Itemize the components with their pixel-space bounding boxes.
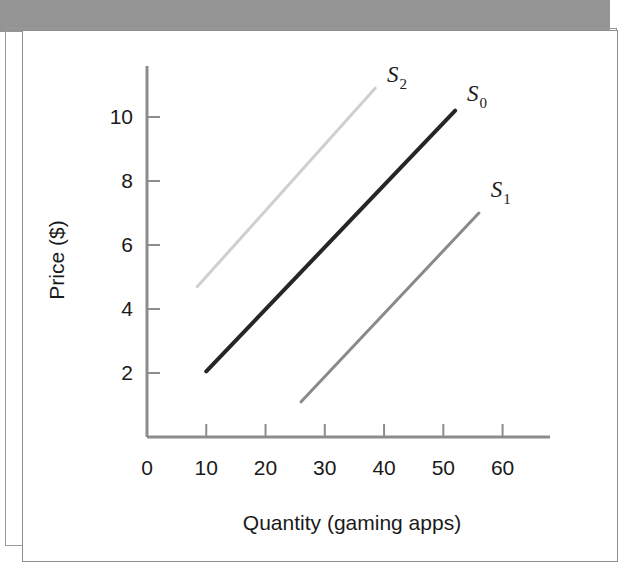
y-axis-ticks [147, 117, 160, 373]
y-tick-label-2: 2 [121, 361, 133, 384]
y-tick-label-4: 4 [121, 297, 133, 320]
x-axis-ticks [206, 424, 502, 437]
curve-label-S1: S1 [491, 177, 511, 207]
x-tick-label-10: 10 [195, 456, 218, 479]
x-axis-title: Quantity (gaming apps) [243, 511, 461, 534]
supply-curve-S2 [197, 88, 375, 286]
y-tick-label-10: 10 [110, 105, 133, 128]
x-tick-label-60: 60 [491, 456, 514, 479]
supply-curve-S0 [206, 111, 455, 372]
curve-label-subscript-S0: 0 [480, 95, 488, 111]
y-axis-title: Price ($) [45, 220, 68, 299]
curve-label-subscript-S1: 1 [503, 191, 511, 207]
x-tick-label-50: 50 [432, 456, 455, 479]
supply-curve-labels-group: S2S0S1 [387, 62, 511, 207]
curve-label-S0: S0 [467, 81, 487, 111]
chart-plot-area: 246810 0102030405060 S2S0S1 Price ($) Qu… [22, 30, 618, 562]
curve-label-S2: S2 [387, 62, 407, 92]
curve-label-subscript-S2: 2 [400, 76, 408, 92]
x-axis-tick-labels: 0102030405060 [141, 456, 514, 479]
supply-curves-group [197, 88, 479, 402]
x-tick-label-20: 20 [254, 456, 277, 479]
y-tick-label-6: 6 [121, 233, 133, 256]
chart-axes [147, 66, 550, 437]
x-tick-label-0: 0 [141, 456, 153, 479]
y-axis-tick-labels: 246810 [110, 105, 134, 384]
x-tick-label-30: 30 [313, 456, 336, 479]
x-tick-label-40: 40 [372, 456, 395, 479]
y-tick-label-8: 8 [121, 169, 133, 192]
supply-curve-chart: 246810 0102030405060 S2S0S1 Price ($) Qu… [22, 30, 618, 562]
figure-title: SHIFTS IN THE SUPPLY CURVE [14, 0, 310, 2]
